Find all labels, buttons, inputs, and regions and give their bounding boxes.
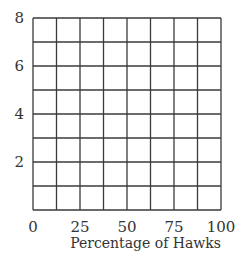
y-tick-label: 6 <box>14 57 24 75</box>
x-tick-label: 100 <box>207 218 236 236</box>
x-tick-label: 25 <box>70 218 89 236</box>
x-axis-label: Percentage of Hawks <box>70 235 221 251</box>
chart: 2468 0255075100 Percentage of Hawks <box>0 0 248 257</box>
x-tick-label: 75 <box>164 218 183 236</box>
y-tick-label: 2 <box>14 153 24 171</box>
x-tick-label: 0 <box>28 218 38 236</box>
y-tick-label: 8 <box>14 9 24 27</box>
y-tick-label: 4 <box>14 105 24 123</box>
chart-grid <box>33 18 221 210</box>
x-tick-label: 50 <box>117 218 136 236</box>
y-axis-tick-labels: 2468 <box>14 9 24 171</box>
x-axis-tick-labels: 0255075100 <box>28 218 235 236</box>
